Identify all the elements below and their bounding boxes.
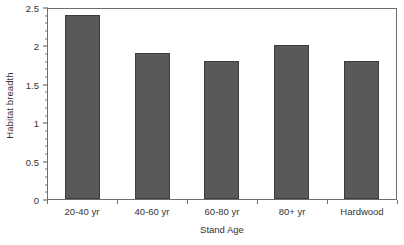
plot-area	[47, 8, 397, 200]
x-axis-tick-label: 80+ yr	[257, 206, 327, 220]
x-axis-tick	[327, 200, 328, 204]
x-axis-tick	[117, 200, 118, 204]
bar[interactable]	[135, 53, 170, 199]
x-axis-tick-label: 60-80 yr	[187, 206, 257, 220]
y-axis-title-text: Habitat breadth	[4, 72, 15, 138]
x-axis-tick-label: 20-40 yr	[47, 206, 117, 220]
x-axis-tick-labels: 20-40 yr40-60 yr60-80 yr80+ yrHardwood	[47, 206, 397, 220]
bar-slot	[326, 9, 396, 199]
x-axis-tick-marks	[47, 200, 397, 205]
y-axis-tick-label: 0.5	[26, 156, 39, 167]
y-axis-tick-labels: 00.511.522.5	[14, 8, 42, 200]
bar[interactable]	[344, 61, 379, 199]
x-axis-tick-label: Hardwood	[327, 206, 397, 220]
x-axis-tick-label: 40-60 yr	[117, 206, 187, 220]
bar-slot	[118, 9, 188, 199]
bar-slot	[187, 9, 257, 199]
x-axis-tick	[187, 200, 188, 204]
y-axis-tick-label: 1.5	[26, 79, 39, 90]
x-axis-title: Stand Age	[47, 224, 397, 235]
y-axis-tick-label: 0	[34, 195, 39, 206]
bar-chart-figure: Habitat breadth 00.511.522.5 20-40 yr40-…	[0, 0, 404, 245]
bar-series	[48, 9, 396, 199]
x-axis-tick	[47, 200, 48, 204]
y-axis-tick-label: 2.5	[26, 3, 39, 14]
x-axis-tick	[257, 200, 258, 204]
y-axis-tick-label: 2	[34, 41, 39, 52]
bar-slot	[257, 9, 327, 199]
bar[interactable]	[65, 15, 100, 199]
bar-slot	[48, 9, 118, 199]
bar[interactable]	[274, 45, 309, 199]
y-axis-tick-label: 1	[34, 118, 39, 129]
bar[interactable]	[204, 61, 239, 199]
x-axis-tick	[397, 200, 398, 204]
